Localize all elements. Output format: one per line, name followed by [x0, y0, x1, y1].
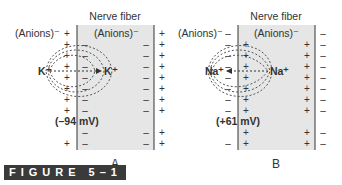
- charge-sign: +: [304, 83, 310, 94]
- inner-signs: –––––––––: [82, 39, 88, 149]
- charge-sign: +: [243, 127, 249, 138]
- ion-outside: K⁺: [38, 65, 52, 77]
- charge-sign: –: [225, 138, 231, 149]
- charge-sign: –: [143, 61, 149, 72]
- charge-sign: –: [143, 83, 149, 94]
- charge-sign: +: [159, 94, 165, 105]
- charge-sign: +: [159, 105, 165, 116]
- charge-sign: –: [143, 72, 149, 83]
- charge-sign: –: [143, 127, 149, 138]
- charge-sign: –: [320, 39, 326, 50]
- charge-sign: –: [320, 83, 326, 94]
- ion-inside: K⁺: [104, 65, 118, 77]
- charge-sign: –: [320, 138, 326, 149]
- ion-inside: Na⁺: [270, 65, 289, 77]
- charge-sign: –: [143, 94, 149, 105]
- charge-sign: –: [82, 72, 88, 83]
- charge-sign: +: [64, 72, 70, 83]
- charge-sign: +: [64, 94, 70, 105]
- charge-sign: +: [159, 39, 165, 50]
- charge-sign: –: [320, 28, 326, 39]
- charge-sign: +: [304, 72, 310, 83]
- membrane-potential: (–94 mV): [55, 115, 99, 127]
- charge-sign: +: [243, 72, 249, 83]
- charge-sign: +: [159, 138, 165, 149]
- charge-sign: +: [64, 39, 70, 50]
- fiber-title: Nerve fiber: [89, 10, 141, 22]
- fiber-title: Nerve fiber: [250, 10, 302, 22]
- outside-anions-label: (Anions)⁻: [178, 27, 223, 39]
- charge-sign: +: [304, 61, 310, 72]
- right-inner-signs: +++++++++: [304, 39, 310, 149]
- charge-sign: –: [225, 28, 231, 39]
- charge-sign: +: [243, 39, 249, 50]
- charge-sign: +: [159, 127, 165, 138]
- charge-sign: +: [64, 61, 70, 72]
- charge-sign: +: [64, 83, 70, 94]
- charge-sign: –: [143, 105, 149, 116]
- charge-sign: +: [159, 72, 165, 83]
- charge-sign: –: [320, 50, 326, 61]
- charge-sign: –: [225, 72, 231, 83]
- membrane-potential: (+61 mV): [216, 115, 260, 127]
- charge-sign: +: [159, 28, 165, 39]
- charge-sign: –: [143, 138, 149, 149]
- charge-sign: +: [159, 83, 165, 94]
- charge-sign: –: [225, 61, 231, 72]
- charge-sign: +: [304, 50, 310, 61]
- charge-sign: +: [304, 138, 310, 149]
- right-inner-signs: –––––––––: [143, 39, 149, 149]
- panel-label: B: [272, 157, 280, 171]
- charge-sign: +: [243, 138, 249, 149]
- charge-sign: +: [159, 50, 165, 61]
- charge-sign: –: [82, 127, 88, 138]
- inside-anions-label: (Anions)⁻: [94, 27, 139, 39]
- charge-sign: +: [64, 138, 70, 149]
- inside-anions-label: (Anions)⁻: [254, 27, 299, 39]
- charge-sign: –: [320, 72, 326, 83]
- charge-sign: –: [143, 39, 149, 50]
- charge-sign: +: [304, 127, 310, 138]
- charge-sign: +: [159, 61, 165, 72]
- charge-sign: –: [143, 50, 149, 61]
- right-outer-signs: ––––––––––: [320, 28, 326, 149]
- charge-sign: –: [82, 61, 88, 72]
- charge-sign: –: [320, 61, 326, 72]
- inner-signs: +++++++++: [243, 39, 249, 149]
- outer-signs: +++++++++: [64, 28, 70, 149]
- charge-sign: +: [243, 61, 249, 72]
- charge-sign: –: [82, 39, 88, 50]
- right-outer-signs: ++++++++++: [159, 28, 165, 149]
- panel-a: Nerve fiber (Anions)⁻ (Anions)⁻ ++++++++…: [15, 10, 165, 171]
- charge-sign: –: [320, 94, 326, 105]
- nerve-fiber-diagram: Nerve fiber (Anions)⁻ (Anions)⁻ ++++++++…: [0, 0, 342, 185]
- outside-anions-label: (Anions)⁻: [15, 27, 60, 39]
- charge-sign: –: [225, 83, 231, 94]
- ion-outside: Na⁺: [205, 65, 224, 77]
- charge-sign: –: [82, 138, 88, 149]
- charge-sign: +: [304, 105, 310, 116]
- figure-caption: FIGURE 5–1: [4, 165, 126, 180]
- panel-b: Nerve fiber (Anions)⁻ (Anions)⁻ ––––––––…: [178, 10, 326, 171]
- charge-sign: +: [304, 39, 310, 50]
- outer-signs: –––––––––: [225, 28, 231, 149]
- charge-sign: +: [64, 28, 70, 39]
- charge-sign: –: [320, 105, 326, 116]
- charge-sign: +: [304, 94, 310, 105]
- charge-sign: –: [225, 39, 231, 50]
- charge-sign: –: [320, 127, 326, 138]
